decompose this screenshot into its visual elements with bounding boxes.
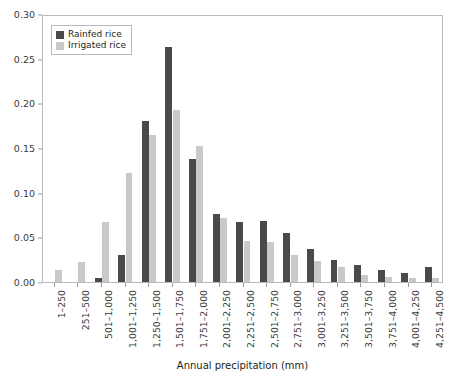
- bar: [236, 222, 243, 282]
- bar: [331, 260, 338, 282]
- bar: [291, 255, 298, 282]
- legend-swatch-icon: [56, 31, 64, 39]
- bar: [95, 278, 102, 282]
- bar: [142, 121, 149, 282]
- x-tick-mark: [313, 283, 314, 287]
- bar: [55, 270, 62, 283]
- bar: [118, 255, 125, 282]
- x-tick-mark: [243, 283, 244, 287]
- x-tick-label: 1,001–1,250: [128, 290, 137, 348]
- x-tick-label: 3,001–3,250: [317, 290, 326, 348]
- bar: [283, 233, 290, 282]
- x-tick-label: 2,751–3,000: [293, 290, 302, 348]
- x-tick-mark: [77, 283, 78, 287]
- x-tick-mark: [195, 283, 196, 287]
- bar: [425, 267, 432, 282]
- bar: [307, 249, 314, 282]
- bar: [361, 275, 368, 282]
- x-tick-label: 1,751–2,000: [199, 290, 208, 348]
- bar: [220, 218, 227, 282]
- x-tick-label: 4,001–4,250: [411, 290, 420, 348]
- bar: [378, 270, 385, 283]
- bar: [173, 110, 180, 282]
- bar: [260, 221, 267, 282]
- bars-layer: [43, 16, 442, 282]
- y-axis: 0.000.050.100.150.200.250.30: [0, 15, 42, 284]
- x-tick-label: 1–250: [57, 290, 66, 318]
- bar: [385, 277, 392, 282]
- y-tick-label: 0.00: [14, 278, 35, 288]
- x-tick-label: 2,501–2,750: [270, 290, 279, 348]
- bar: [102, 222, 109, 282]
- y-tick-label: 0.10: [14, 189, 35, 199]
- x-tick-mark: [408, 283, 409, 287]
- x-tick-mark: [101, 283, 102, 287]
- x-tick-label: 3,251–3,500: [340, 290, 349, 348]
- bar: [78, 262, 85, 282]
- x-tick-mark: [54, 283, 55, 287]
- legend-item-rainfed-rice: Rainfed rice: [56, 29, 126, 40]
- y-tick-label: 0.15: [14, 144, 35, 154]
- bar: [126, 173, 133, 282]
- plot-area: [42, 15, 443, 283]
- bar: [338, 267, 345, 282]
- x-tick-label: 2,251–2,500: [246, 290, 255, 348]
- x-tick-label: 3,751–4,000: [388, 290, 397, 348]
- bar: [354, 265, 361, 282]
- y-tick-label: 0.20: [14, 100, 35, 110]
- bar: [432, 278, 439, 282]
- x-tick-mark: [431, 283, 432, 287]
- x-tick-mark: [219, 283, 220, 287]
- bar: [267, 242, 274, 282]
- x-tick-label: 1,250–1,500: [152, 290, 161, 348]
- y-tick-label: 0.05: [14, 234, 35, 244]
- y-tick-label: 0.25: [14, 55, 35, 65]
- x-tick-mark: [337, 283, 338, 287]
- bar: [409, 278, 416, 282]
- chart-container: 0.000.050.100.150.200.250.30 1–250251–50…: [0, 0, 455, 380]
- x-axis-title: Annual precipitation (mm): [42, 360, 443, 371]
- x-tick-mark: [148, 283, 149, 287]
- x-tick-label: 4,251–4,500: [435, 290, 444, 348]
- bar: [149, 135, 156, 282]
- x-tick-mark: [266, 283, 267, 287]
- x-tick-label: 251–500: [81, 290, 90, 330]
- x-tick-mark: [290, 283, 291, 287]
- x-tick-label: 501–1,000: [104, 290, 113, 339]
- legend-swatch-icon: [56, 42, 64, 50]
- legend-item-irrigated-rice: Irrigated rice: [56, 40, 126, 51]
- bar: [244, 241, 251, 282]
- x-tick-mark: [384, 283, 385, 287]
- x-tick-label: 3,501–3,750: [364, 290, 373, 348]
- bar: [314, 261, 321, 282]
- y-tick-label: 0.30: [14, 10, 35, 20]
- bar: [189, 159, 196, 282]
- x-tick-label: 1,501–1,750: [175, 290, 184, 348]
- x-axis: 1–250251–500501–1,0001,001–1,2501,250–1,…: [42, 283, 443, 358]
- x-tick-mark: [360, 283, 361, 287]
- chart-legend: Rainfed rice Irrigated rice: [51, 25, 132, 55]
- bar: [165, 47, 172, 282]
- bar: [213, 214, 220, 282]
- legend-label: Rainfed rice: [68, 30, 122, 39]
- legend-label: Irrigated rice: [68, 41, 126, 50]
- bar: [196, 146, 203, 282]
- bar: [401, 273, 408, 282]
- x-tick-mark: [172, 283, 173, 287]
- x-tick-label: 2,001–2,250: [222, 290, 231, 348]
- x-tick-mark: [125, 283, 126, 287]
